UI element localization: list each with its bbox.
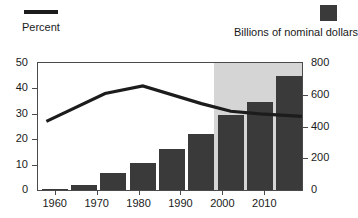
tick-left-40	[32, 88, 37, 89]
ylabel-right-400: 400	[311, 121, 329, 132]
tick-x-1960	[55, 191, 56, 195]
tick-left-20	[32, 139, 37, 140]
ylabel-left-0: 0	[22, 184, 28, 195]
ylabel-left-40: 40	[16, 82, 28, 93]
chart-legend: Percent Billions of nominal dollars	[0, 0, 354, 50]
tick-right-600	[303, 95, 308, 96]
ylabel-left-10: 10	[16, 159, 28, 170]
tick-right-400	[303, 127, 308, 128]
xlabel-1980: 1980	[119, 198, 159, 209]
tick-left-30	[32, 114, 37, 115]
ylabel-left-20: 20	[16, 133, 28, 144]
ylabel-left-30: 30	[16, 108, 28, 119]
ylabel-right-0: 0	[311, 184, 317, 195]
xlabel-1990: 1990	[160, 198, 200, 209]
xlabel-2010: 2010	[244, 198, 284, 209]
line-swatch-icon	[24, 10, 58, 14]
plot-area	[37, 62, 303, 191]
legend-entry-percent: Percent	[22, 10, 60, 34]
ylabel-right-600: 600	[311, 89, 329, 100]
percent-line-path	[46, 86, 302, 122]
xlabel-1960: 1960	[35, 198, 75, 209]
legend-label-dollars: Billions of nominal dollars	[234, 26, 358, 39]
ylabel-right-800: 800	[311, 57, 329, 68]
line-series-layer	[38, 63, 302, 190]
ylabel-right-200: 200	[311, 152, 329, 163]
xlabel-1970: 1970	[77, 198, 117, 209]
xlabel-2000: 2000	[202, 198, 242, 209]
tick-x-1970	[97, 191, 98, 195]
tick-x-1990	[180, 191, 181, 195]
percent-line-svg	[38, 63, 302, 190]
tick-x-2000	[222, 191, 223, 195]
box-swatch-icon	[320, 5, 337, 21]
tick-left-10	[32, 165, 37, 166]
legend-label-percent: Percent	[22, 21, 60, 34]
tick-right-200	[303, 158, 308, 159]
ylabel-left-50: 50	[16, 57, 28, 68]
tick-x-1980	[139, 191, 140, 195]
legend-entry-dollars: Billions of nominal dollars	[234, 5, 358, 39]
tick-x-2010	[264, 191, 265, 195]
